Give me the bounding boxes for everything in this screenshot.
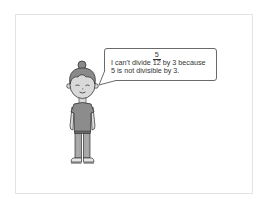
right-shoe [84,158,95,162]
speech-text: I can't divide 512 by 3 because 5 is not… [111,51,206,75]
character-girl [0,0,265,207]
left-shoe [71,158,82,162]
shirt [71,103,94,133]
speech-line2: 5 is not divisible by 3. [111,67,206,75]
fraction: 512 [153,59,161,67]
belt [75,131,91,134]
fraction-bar [153,59,161,60]
speech-bubble: I can't divide 512 by 3 because 5 is not… [104,48,217,81]
